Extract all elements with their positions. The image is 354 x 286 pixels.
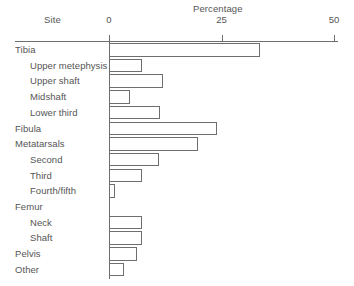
chart-row: Third bbox=[0, 168, 354, 184]
site-axis-title: Site bbox=[44, 14, 61, 25]
x-axis-tick-label: 0 bbox=[97, 14, 121, 25]
bar bbox=[109, 200, 110, 214]
x-axis-tick bbox=[222, 35, 223, 42]
category-label: Upper shaft bbox=[30, 75, 80, 86]
x-axis-tick bbox=[109, 35, 110, 42]
bar bbox=[109, 153, 159, 167]
category-label: Pelvis bbox=[15, 248, 41, 259]
bar bbox=[109, 216, 142, 230]
chart-row: Fibula bbox=[0, 121, 354, 137]
bar bbox=[109, 59, 142, 73]
chart-row: Midshaft bbox=[0, 89, 354, 105]
chart-row: Femur bbox=[0, 199, 354, 215]
plot-area: TibiaUpper metephysisUpper shaftMidshaft… bbox=[0, 42, 354, 286]
x-axis-tick-label: 25 bbox=[210, 14, 234, 25]
bar bbox=[109, 137, 198, 151]
chart-row: Second bbox=[0, 152, 354, 168]
category-label: Third bbox=[30, 170, 52, 181]
bar-chart: Site Percentage TibiaUpper metephysisUpp… bbox=[0, 0, 354, 286]
bar bbox=[109, 122, 217, 136]
chart-row: Tibia bbox=[0, 42, 354, 58]
category-label: Neck bbox=[30, 217, 52, 228]
bar bbox=[109, 184, 115, 198]
x-axis-tick bbox=[334, 35, 335, 42]
x-axis-tick-label: 50 bbox=[322, 14, 346, 25]
chart-row: Metatarsals bbox=[0, 136, 354, 152]
bar bbox=[109, 90, 130, 104]
bar bbox=[109, 247, 137, 261]
bar bbox=[109, 231, 142, 245]
category-label: Fibula bbox=[15, 123, 41, 134]
category-label: Other bbox=[15, 264, 39, 275]
bar bbox=[109, 263, 124, 277]
percentage-axis-title: Percentage bbox=[193, 3, 243, 14]
category-label: Tibia bbox=[15, 44, 36, 55]
chart-row: Fourth/fifth bbox=[0, 183, 354, 199]
chart-row: Pelvis bbox=[0, 246, 354, 262]
category-label: Second bbox=[30, 154, 63, 165]
chart-header: Site Percentage bbox=[0, 0, 354, 38]
chart-row: Upper metephysis bbox=[0, 58, 354, 74]
chart-row: Other bbox=[0, 262, 354, 278]
bar bbox=[109, 169, 142, 183]
category-label: Lower third bbox=[30, 107, 78, 118]
category-label: Metatarsals bbox=[15, 138, 65, 149]
bar bbox=[109, 43, 260, 57]
bar bbox=[109, 106, 160, 120]
chart-row: Neck bbox=[0, 215, 354, 231]
category-label: Fourth/fifth bbox=[30, 185, 76, 196]
category-label: Femur bbox=[15, 201, 43, 212]
chart-row: Shaft bbox=[0, 230, 354, 246]
bar bbox=[109, 74, 163, 88]
chart-row: Lower third bbox=[0, 105, 354, 121]
category-label: Upper metephysis bbox=[30, 60, 107, 71]
category-label: Shaft bbox=[30, 232, 52, 243]
chart-row: Upper shaft bbox=[0, 73, 354, 89]
category-label: Midshaft bbox=[30, 91, 66, 102]
